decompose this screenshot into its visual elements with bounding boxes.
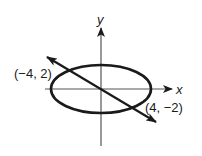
point-label-negative-4-2: (−4, 2) bbox=[14, 66, 52, 81]
ellipse-line-intersection-diagram: y x (−4, 2) (4, −2) bbox=[0, 0, 202, 156]
point-label-4-negative-2: (4, −2) bbox=[145, 100, 183, 115]
x-axis-label: x bbox=[175, 82, 183, 97]
y-axis-label: y bbox=[96, 12, 105, 27]
